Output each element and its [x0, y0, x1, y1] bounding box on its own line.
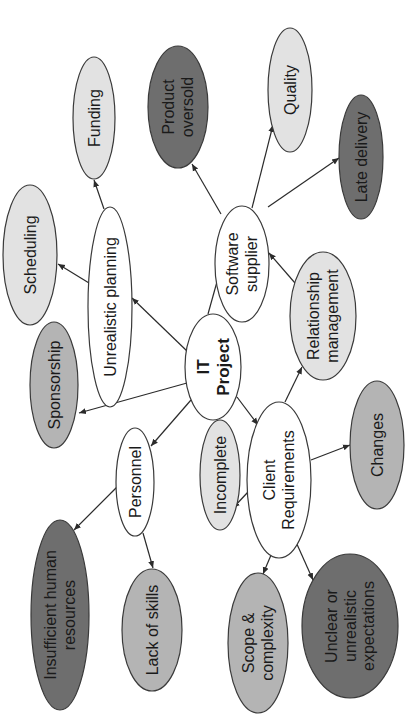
node-label: Sponsorship [46, 340, 63, 429]
node-it-project: ITProject [185, 314, 241, 420]
edge-personnel-to-lack-of-skills [143, 533, 153, 568]
node-unrealistic-planning: Unrealistic planning [88, 207, 132, 407]
node-label: Changes [369, 413, 386, 477]
edge-client-requirements-to-changes [311, 445, 350, 460]
node-label: Scope &complexity [240, 605, 275, 681]
node-insufficient-human-resources: Insufficient humanresources [31, 520, 89, 710]
node-label-line: Late delivery [353, 112, 370, 203]
node-label-line: Funding [86, 89, 103, 147]
node-label-line: resources [61, 580, 78, 650]
node-label-line: Personnel [127, 446, 144, 518]
node-label-line: Software [224, 232, 241, 295]
node-label-line: management [324, 269, 341, 363]
node-label-line: Unrealistic planning [102, 237, 119, 377]
node-software-supplier: Softwaresupplier [215, 206, 269, 322]
node-label: Late delivery [353, 112, 370, 203]
edge-software-supplier-to-product-oversold [192, 164, 221, 214]
node-relationship-management: Relationshipmanagement [290, 252, 356, 380]
edge-software-supplier-to-quality [252, 125, 273, 208]
edge-unrealistic-planning-to-scheduling [58, 264, 89, 283]
node-label-line: supplier [243, 235, 260, 292]
node-sponsorship: Sponsorship [30, 322, 78, 448]
edge-client-requirements-to-relationship-management [285, 367, 302, 402]
node-label: Scheduling [22, 215, 39, 294]
node-label-line: Project [214, 338, 233, 396]
node-label: Softwaresupplier [224, 232, 259, 295]
edge-it-project-to-unrealistic-planning [132, 298, 188, 352]
node-late-delivery: Late delivery [339, 95, 383, 219]
node-label-line: oversold [179, 77, 196, 137]
node-label-line: IT [194, 359, 213, 375]
node-client-requirements: ClientRequirements [247, 402, 311, 558]
node-label: Unclear orunrealisticexpectations [323, 581, 377, 671]
node-lack-of-skills: Lack of skills [122, 569, 182, 691]
edge-software-supplier-to-late-delivery [268, 158, 339, 207]
node-label-line: Quality [282, 65, 299, 115]
node-label: Incomplete [212, 436, 229, 514]
edge-it-project-to-client-requirements [237, 397, 258, 425]
node-label-line: Lack of skills [144, 585, 161, 676]
node-label-line: Sponsorship [46, 340, 63, 429]
node-personnel: Personnel [116, 428, 154, 536]
node-label-line: Relationship [305, 272, 322, 360]
mind-map-diagram: ITProjectUnrealistic planningSoftwaresup… [0, 0, 417, 714]
edge-personnel-to-insufficient-human-resources [74, 487, 117, 530]
node-label: Funding [86, 89, 103, 147]
node-label-line: Unclear or [323, 588, 340, 662]
node-label-line: Scheduling [22, 215, 39, 294]
node-incomplete: Incomplete [200, 420, 240, 530]
node-funding: Funding [73, 57, 115, 179]
diagram-canvas: ITProjectUnrealistic planningSoftwaresup… [0, 0, 417, 714]
node-label: Personnel [127, 446, 144, 518]
node-label-line: complexity [259, 605, 276, 681]
node-label-line: expectations [360, 581, 377, 671]
edge-it-project-to-sponsorship [79, 383, 187, 413]
node-changes: Changes [350, 381, 404, 509]
node-label: Productoversold [160, 77, 195, 137]
node-label-line: unrealistic [342, 590, 359, 662]
node-label: Lack of skills [144, 585, 161, 676]
node-label-line: Scope & [240, 612, 257, 673]
node-scheduling: Scheduling [3, 185, 57, 325]
node-label-line: Client [261, 459, 278, 500]
node-scope-complexity: Scope &complexity [228, 573, 288, 713]
node-label: Relationshipmanagement [305, 269, 340, 363]
node-label: Quality [282, 65, 299, 115]
node-label-line: Product [160, 79, 177, 135]
node-label: Unrealistic planning [102, 237, 119, 377]
node-unclear-expectations: Unclear orunrealisticexpectations [302, 554, 398, 698]
node-label-line: Incomplete [212, 436, 229, 514]
node-quality: Quality [268, 28, 312, 152]
node-label-line: Requirements [280, 430, 297, 530]
node-label-line: Insufficient human [42, 550, 59, 680]
edge-relationship-management-to-software-supplier [269, 253, 295, 283]
edge-client-requirements-to-unclear-expectations [296, 542, 313, 580]
node-label-line: Changes [369, 413, 386, 477]
edge-it-project-to-personnel [151, 400, 191, 446]
nodes-layer: ITProjectUnrealistic planningSoftwaresup… [3, 28, 404, 713]
node-product-oversold: Productoversold [148, 46, 208, 168]
edge-unrealistic-planning-to-funding [94, 180, 104, 209]
